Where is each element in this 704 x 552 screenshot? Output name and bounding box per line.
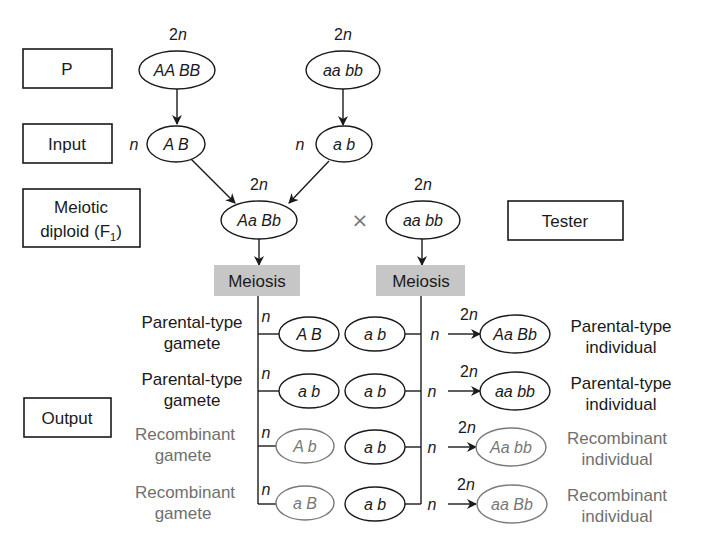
- tester-diploid: 2n aa bb: [386, 176, 460, 239]
- offspring-type-label: Parental-type: [570, 374, 671, 393]
- meiosis-box-right: Meiosis: [376, 265, 465, 296]
- meiotic-diploid-line1: Meiotic: [54, 198, 108, 217]
- output-row-1: Parental-type gamete n A B a b n 2n Aa B…: [141, 306, 671, 357]
- offspring-type-label: individual: [582, 507, 653, 526]
- offspring-type-label: individual: [586, 338, 657, 357]
- tester-gamete-genotype: a b: [364, 496, 386, 513]
- offspring-type-label: Recombinant: [567, 429, 667, 448]
- arrow-diagonal-icon: [289, 161, 329, 203]
- ploidy-2n-label: 2n: [169, 26, 187, 43]
- ploidy-n-label: n: [428, 383, 437, 400]
- gamete-genotype: a b: [298, 383, 320, 400]
- offspring-genotype: aa bb: [495, 383, 535, 400]
- ploidy-n-label: n: [428, 496, 437, 513]
- offspring-genotype: aa Bb: [491, 496, 533, 513]
- meiosis-box-left: Meiosis: [214, 265, 300, 296]
- gamete-genotype: A b: [292, 438, 317, 455]
- gamete-type-label: gamete: [164, 334, 221, 353]
- gamete-type-label: Recombinant: [135, 425, 235, 444]
- f1-diploid: 2n Aa Bb: [221, 176, 297, 239]
- offspring-type-label: individual: [582, 450, 653, 469]
- meiotic-diploid-line2: diploid (F1): [40, 222, 122, 243]
- tester-gamete-genotype: a b: [364, 326, 386, 343]
- ploidy-n-label: n: [262, 424, 271, 441]
- ploidy-n-label: n: [428, 439, 437, 456]
- ploidy-n-label: n: [262, 365, 271, 382]
- row-label-tester-text: Tester: [542, 212, 589, 231]
- row-label-output: Output: [24, 398, 111, 437]
- ploidy-n-label: n: [130, 136, 139, 153]
- offspring-genotype: Aa Bb: [492, 326, 537, 343]
- row-label-output-text: Output: [41, 409, 92, 428]
- parent-left: 2n AA BB: [139, 26, 215, 89]
- ploidy-n-label: n: [262, 308, 271, 325]
- tester-gamete-genotype: a b: [364, 439, 386, 456]
- cross-symbol-icon: ×: [352, 208, 369, 232]
- ploidy-n-label: n: [262, 481, 271, 498]
- gamete-type-label: gamete: [155, 504, 212, 523]
- tester-gamete-genotype: a b: [364, 383, 386, 400]
- parent-left-genotype: AA BB: [153, 62, 201, 79]
- ploidy-2n-label: 2n: [458, 419, 476, 436]
- offspring-type-label: Recombinant: [567, 486, 667, 505]
- ploidy-2n-label: 2n: [414, 176, 432, 193]
- row-label-tester: Tester: [508, 201, 623, 240]
- row-label-input: Input: [23, 124, 112, 163]
- input-gamete-right: n a b: [296, 126, 372, 162]
- meiotic-diploid-close: ): [116, 222, 122, 241]
- gamete-type-label: gamete: [164, 391, 221, 410]
- offspring-type-label: individual: [586, 395, 657, 414]
- gamete-type-label: gamete: [155, 446, 212, 465]
- gamete-type-label: Parental-type: [141, 370, 242, 389]
- ploidy-2n-label: 2n: [460, 363, 478, 380]
- row-label-p-text: P: [61, 60, 72, 79]
- input-gamete-left: n A B: [130, 126, 205, 162]
- f1-genotype: Aa Bb: [236, 212, 281, 229]
- output-row-3: Recombinant gamete n A b a b n 2n Aa bb …: [135, 419, 667, 469]
- output-row-2: Parental-type gamete n a b a b n 2n aa b…: [141, 363, 671, 414]
- ploidy-n-label: n: [296, 136, 305, 153]
- row-label-input-text: Input: [48, 135, 86, 154]
- offspring-type-label: Parental-type: [570, 317, 671, 336]
- ploidy-n-label: n: [431, 326, 440, 343]
- testcross-diagram: P Input Meiotic diploid (F1) Tester Outp…: [0, 0, 704, 552]
- input-gamete-right-genotype: a b: [333, 136, 355, 153]
- parent-right-genotype: aa bb: [323, 62, 363, 79]
- row-label-meiotic-diploid: Meiotic diploid (F1): [23, 189, 140, 247]
- parent-right: 2n aa bb: [306, 26, 380, 89]
- ploidy-2n-label: 2n: [250, 176, 268, 193]
- gamete-genotype: a B: [293, 495, 317, 512]
- meiosis-right-label: Meiosis: [392, 272, 450, 291]
- offspring-genotype: Aa bb: [489, 439, 532, 456]
- output-row-4: Recombinant gamete n a B a b n 2n aa Bb …: [135, 476, 667, 526]
- gamete-type-label: Parental-type: [141, 313, 242, 332]
- meiotic-diploid-line2-text: diploid (F: [40, 222, 110, 241]
- tester-genotype: aa bb: [403, 212, 443, 229]
- input-gamete-left-genotype: A B: [162, 136, 189, 153]
- gamete-genotype: A B: [295, 326, 322, 343]
- gamete-type-label: Recombinant: [135, 483, 235, 502]
- row-label-p: P: [23, 49, 112, 88]
- arrow-diagonal-icon: [191, 159, 235, 203]
- ploidy-2n-label: 2n: [334, 26, 352, 43]
- ploidy-2n-label: 2n: [460, 306, 478, 323]
- meiosis-left-label: Meiosis: [228, 272, 286, 291]
- ploidy-2n-label: 2n: [457, 476, 475, 493]
